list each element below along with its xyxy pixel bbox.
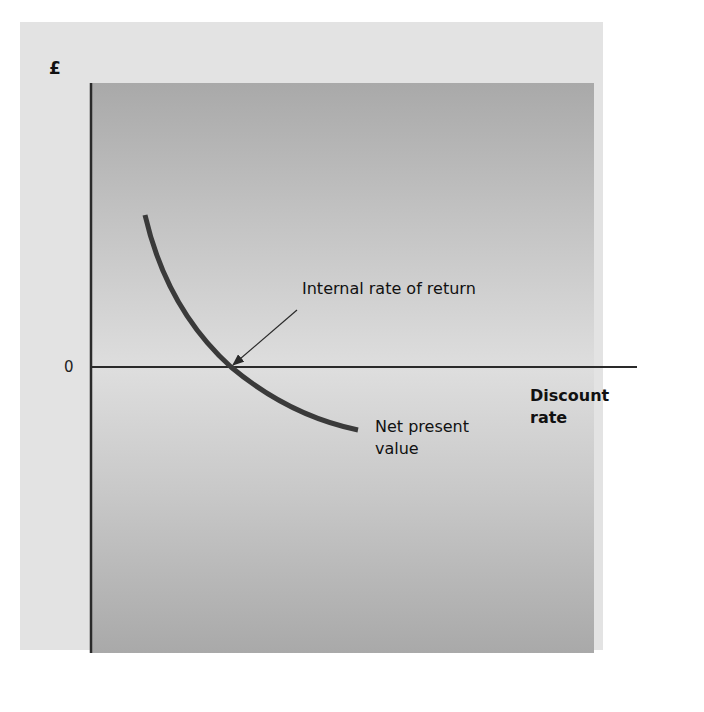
irr-arrow — [233, 310, 297, 365]
x-axis-label: Discount rate — [530, 385, 630, 429]
zero-tick-label: 0 — [64, 358, 74, 376]
npv-curve — [145, 215, 358, 430]
irr-annotation: Internal rate of return — [302, 279, 476, 298]
chart-graphics — [0, 0, 704, 712]
y-axis-label: £ — [49, 58, 61, 78]
npv-curve-label: Net present value — [375, 416, 495, 460]
